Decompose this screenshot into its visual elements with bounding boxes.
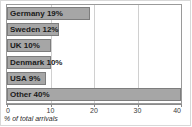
bar-row: UK 10% xyxy=(7,39,181,52)
bar-row: Sweden 12% xyxy=(7,23,181,36)
bar-row: USA 9% xyxy=(7,72,181,85)
bar-label-denmark: Denmark 10% xyxy=(10,56,62,69)
plot-area: Germany 19%Sweden 12%UK 10%Denmark 10%US… xyxy=(6,4,182,104)
bar-label-other: Other 40% xyxy=(10,88,50,101)
x-tick-label: 0 xyxy=(6,107,10,114)
bar-label-germany: Germany 19% xyxy=(10,7,63,20)
x-tick-label: 10 xyxy=(47,107,55,114)
bar-row: Germany 19% xyxy=(7,7,181,20)
bar-row: Denmark 10% xyxy=(7,56,181,69)
bar-label-sweden: Sweden 12% xyxy=(10,23,58,36)
bar-chart: Germany 19%Sweden 12%UK 10%Denmark 10%US… xyxy=(0,0,192,127)
bar-label-uk: UK 10% xyxy=(10,39,40,52)
x-tick-label: 30 xyxy=(134,107,142,114)
bar-series: Germany 19%Sweden 12%UK 10%Denmark 10%US… xyxy=(7,5,181,103)
x-tick-label: 40 xyxy=(173,107,181,114)
x-tick-label: 20 xyxy=(90,107,98,114)
bar-row: Other 40% xyxy=(7,88,181,101)
x-axis-title: % of total arrivals xyxy=(4,115,58,122)
bar-label-usa: USA 9% xyxy=(10,72,40,85)
